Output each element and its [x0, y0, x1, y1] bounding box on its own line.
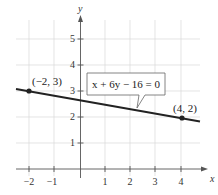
point-a-marker — [26, 88, 31, 93]
x-axis-arrow-icon — [201, 167, 208, 172]
point-b-marker — [179, 115, 184, 120]
y-tick-label: 1 — [70, 137, 75, 148]
x-tick-label: 2 — [128, 176, 133, 187]
x-tick-labels: −2 −1 1 2 3 4 — [24, 176, 184, 187]
x-tick-label: −2 — [24, 176, 35, 187]
y-tick-label: 4 — [70, 59, 75, 70]
x-tick-label: 1 — [103, 176, 108, 187]
point-b-label: (4, 2) — [173, 102, 197, 115]
y-axis-label: y — [77, 3, 83, 14]
point-a-label: (−2, 3) — [32, 75, 62, 88]
chart: x y −2 −1 1 2 3 4 1 2 3 4 5 (−2, 3) (4, … — [0, 0, 218, 195]
x-tick-label: −1 — [47, 176, 58, 187]
grid — [16, 20, 200, 176]
y-tick-labels: 1 2 3 4 5 — [70, 33, 75, 148]
y-tick-label: 5 — [70, 33, 75, 44]
equation-label: x + 6y − 16 = 0 — [92, 78, 161, 90]
axes — [16, 15, 208, 178]
y-tick-label: 3 — [70, 85, 75, 96]
y-axis-arrow-icon — [78, 15, 83, 22]
x-axis-label: x — [209, 173, 215, 184]
x-tick-label: 4 — [179, 176, 184, 187]
x-tick-label: 3 — [153, 176, 158, 187]
y-tick-label: 2 — [70, 111, 75, 122]
